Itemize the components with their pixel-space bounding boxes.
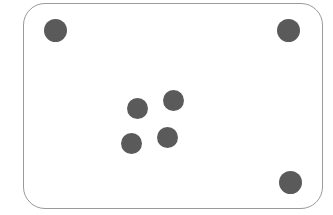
dot-cluster-lower-left[interactable] — [121, 133, 142, 154]
dot-cluster-lower-right[interactable] — [157, 127, 178, 148]
dot-bottom-right[interactable] — [279, 171, 302, 194]
dot-top-right[interactable] — [277, 19, 300, 42]
dot-cluster-upper-right[interactable] — [163, 90, 184, 111]
dot-pattern-canvas — [0, 0, 333, 215]
dot-top-left[interactable] — [44, 19, 67, 42]
dot-cluster-upper-left[interactable] — [127, 98, 148, 119]
